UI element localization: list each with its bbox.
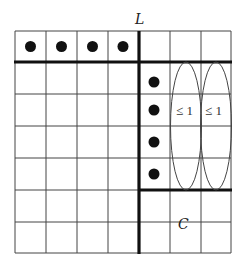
dot [149, 169, 160, 180]
dot [149, 105, 160, 116]
thick-lines [14, 31, 232, 254]
dot [149, 77, 160, 88]
dot [118, 41, 129, 52]
grid-diagram: L ≤ 1 ≤ 1 C [0, 0, 241, 261]
dot [25, 41, 36, 52]
label-ellipse-left: ≤ 1 [176, 103, 193, 118]
dot [149, 137, 160, 148]
label-ellipse-right: ≤ 1 [205, 103, 222, 118]
label-L: L [134, 11, 144, 27]
label-C: C [178, 216, 189, 232]
dot [56, 41, 67, 52]
thin-grid-lines [15, 31, 231, 253]
dot [87, 41, 98, 52]
